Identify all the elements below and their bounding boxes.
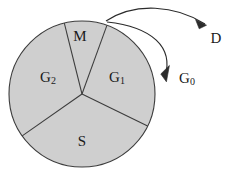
arrow-label-g0-subscript: 0: [190, 76, 195, 87]
sector-label-s: S: [78, 134, 86, 149]
arrow-label-g0: G0: [179, 71, 195, 88]
sector-label-g1: G1: [109, 70, 125, 87]
cell-cycle-svg: [0, 0, 235, 173]
arrow-label-d: D: [211, 31, 222, 46]
sector-label-g2: G2: [40, 70, 56, 87]
arrow-d-head: [196, 19, 207, 28]
sector-label-s-text: S: [78, 133, 86, 149]
sector-label-g1-subscript: 1: [120, 75, 125, 86]
arrow-label-d-text: D: [211, 30, 222, 46]
sector-label-m: M: [73, 29, 86, 44]
sector-label-g1-text: G: [109, 69, 120, 85]
sector-label-m-text: M: [73, 28, 86, 44]
cell-cycle-figure: M G1 S G2 D G0: [0, 0, 235, 173]
sector-label-g2-text: G: [40, 69, 51, 85]
arrow-d-curve: [106, 8, 205, 24]
sector-label-g2-subscript: 2: [51, 75, 56, 86]
arrow-label-g0-text: G: [179, 70, 190, 86]
